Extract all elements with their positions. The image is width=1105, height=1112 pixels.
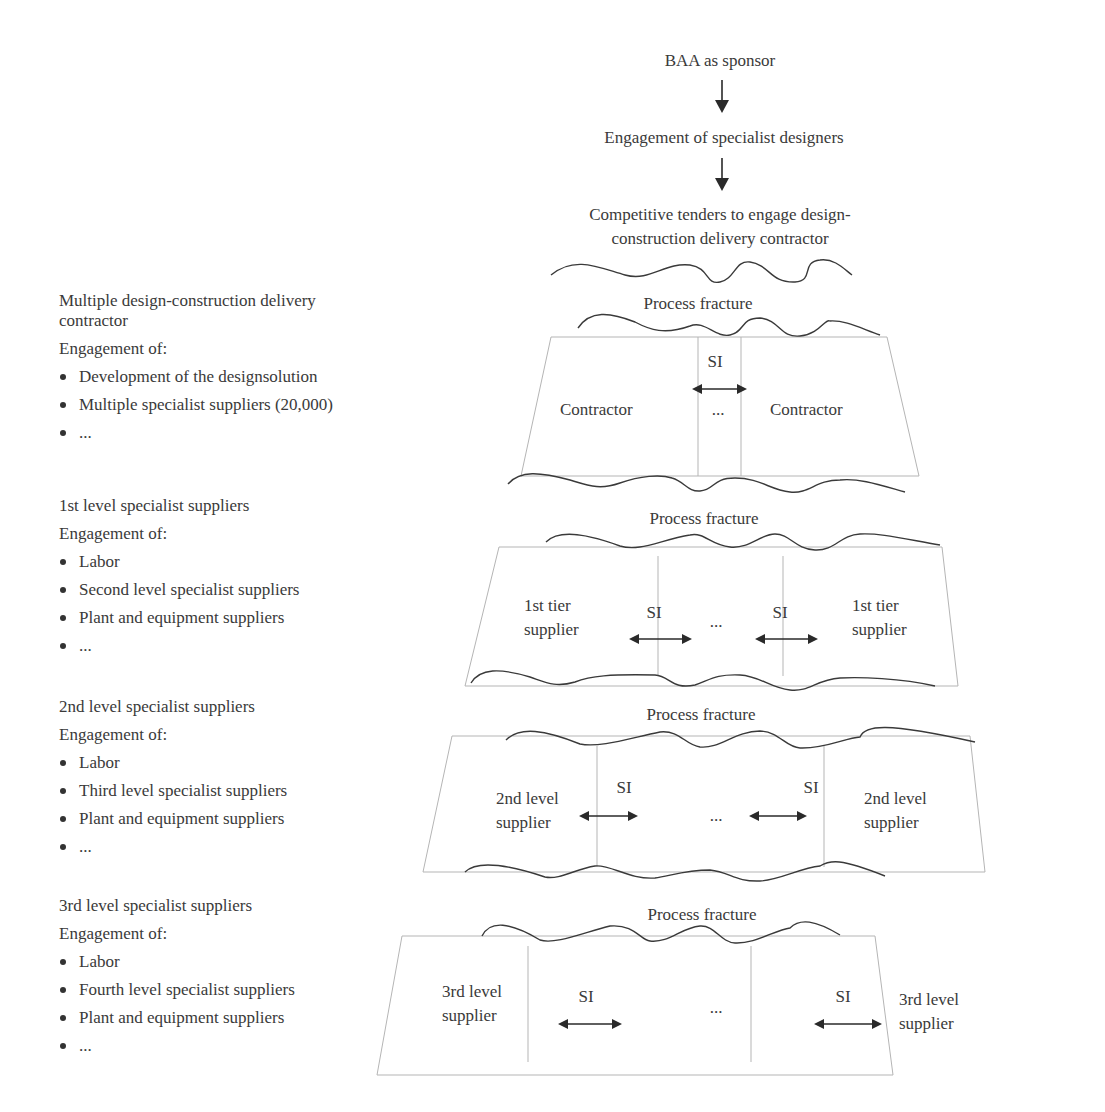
level-heading: 3rd level specialist suppliers <box>59 896 295 916</box>
fracture-wave <box>465 862 885 881</box>
tenders-label-line1: Competitive tenders to engage design- <box>589 205 851 225</box>
fracture-wave <box>578 314 880 336</box>
engagement-list: Labor Second level specialist suppliers … <box>59 552 299 656</box>
third-level-left-label-line1: 3rd level <box>442 982 502 1002</box>
list-item: ... <box>59 423 333 443</box>
list-item: Second level specialist suppliers <box>59 580 299 600</box>
list-item: ... <box>59 1036 295 1056</box>
down-arrow-icon <box>715 158 729 191</box>
third-level-right-label-line1: 3rd level <box>899 990 959 1010</box>
list-item: Plant and equipment suppliers <box>59 809 287 829</box>
sponsor-label: BAA as sponsor <box>665 51 776 71</box>
level-heading: Multiple design-construction delivery <box>59 291 333 311</box>
first-tier-left-label-line2: supplier <box>524 620 579 640</box>
contractor-right-label: Contractor <box>770 400 843 420</box>
si-label: SI <box>772 603 787 623</box>
contractor-left-label: Contractor <box>560 400 633 420</box>
process-fracture-label: Process fracture <box>649 509 758 529</box>
level-description-second: 2nd level specialist suppliers Engagemen… <box>59 697 287 865</box>
process-fracture-label: Process fracture <box>646 705 755 725</box>
tenders-label-line2: construction delivery contractor <box>611 229 828 249</box>
list-item: Development of the designsolution <box>59 367 333 387</box>
third-level-right-label-line2: supplier <box>899 1014 954 1034</box>
second-level-left-label-line1: 2nd level <box>496 789 559 809</box>
list-item: Plant and equipment suppliers <box>59 1008 295 1028</box>
fracture-wave <box>508 474 905 492</box>
first-tier-right-label-line1: 1st tier <box>852 596 899 616</box>
ellipsis-label: ... <box>712 400 725 420</box>
second-level-right-label-line2: supplier <box>864 813 919 833</box>
level-description-third: 3rd level specialist suppliers Engagemen… <box>59 896 295 1064</box>
list-item: Third level specialist suppliers <box>59 781 287 801</box>
level-heading: 2nd level specialist suppliers <box>59 697 287 717</box>
list-item: Plant and equipment suppliers <box>59 608 299 628</box>
si-label: SI <box>616 778 631 798</box>
level-description-first: 1st level specialist suppliers Engagemen… <box>59 496 299 664</box>
engagement-list: Labor Fourth level specialist suppliers … <box>59 952 295 1056</box>
level-description-contractor: Multiple design-construction delivery co… <box>59 291 333 451</box>
ellipsis-label: ... <box>710 806 723 826</box>
down-arrow-icon <box>715 80 729 113</box>
fracture-wave <box>506 727 975 748</box>
level-heading-line2: contractor <box>59 311 333 331</box>
first-tier-left-label-line1: 1st tier <box>524 596 571 616</box>
list-item: ... <box>59 636 299 656</box>
list-item: Fourth level specialist suppliers <box>59 980 295 1000</box>
si-label: SI <box>578 987 593 1007</box>
list-item: Multiple specialist suppliers (20,000) <box>59 395 333 415</box>
first-tier-right-label-line2: supplier <box>852 620 907 640</box>
second-level-right-label-line1: 2nd level <box>864 789 927 809</box>
engagement-list: Labor Third level specialist suppliers P… <box>59 753 287 857</box>
si-label: SI <box>646 603 661 623</box>
fracture-wave <box>546 534 940 550</box>
list-item: Labor <box>59 753 287 773</box>
fracture-wave <box>551 260 852 283</box>
engagement-label: Engagement of: <box>59 339 333 359</box>
ellipsis-label: ... <box>710 998 723 1018</box>
si-label: SI <box>803 778 818 798</box>
list-item: Labor <box>59 552 299 572</box>
second-level-left-label-line2: supplier <box>496 813 551 833</box>
list-item: Labor <box>59 952 295 972</box>
si-label: SI <box>707 352 722 372</box>
third-level-left-label-line2: supplier <box>442 1006 497 1026</box>
designers-label: Engagement of specialist designers <box>604 128 843 148</box>
engagement-list: Development of the designsolution Multip… <box>59 367 333 443</box>
si-label: SI <box>835 987 850 1007</box>
process-fracture-label: Process fracture <box>647 905 756 925</box>
engagement-label: Engagement of: <box>59 524 299 544</box>
ellipsis-label: ... <box>710 612 723 632</box>
process-fracture-label: Process fracture <box>643 294 752 314</box>
engagement-label: Engagement of: <box>59 725 287 745</box>
level-heading: 1st level specialist suppliers <box>59 496 299 516</box>
engagement-label: Engagement of: <box>59 924 295 944</box>
fracture-wave <box>471 671 935 690</box>
list-item: ... <box>59 837 287 857</box>
fracture-wave <box>482 922 840 943</box>
